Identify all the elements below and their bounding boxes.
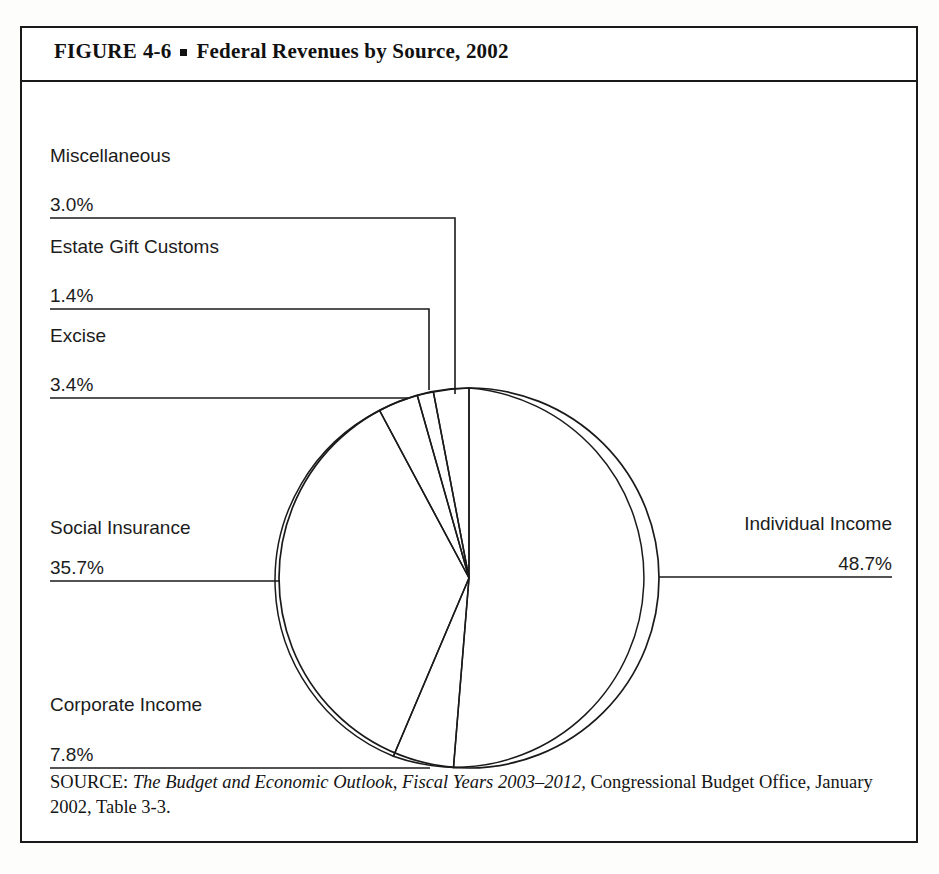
pie-value-excise: 3.4% [50,374,93,395]
pie-slice-individual-income [454,388,644,767]
figure-frame: FIGURE4-6Federal Revenues by Source, 200… [20,26,918,843]
figure-title-bar: FIGURE4-6Federal Revenues by Source, 200… [22,28,916,82]
page-title: FIGURE4-6Federal Revenues by Source, 200… [54,39,509,64]
pie-value-estate-gift-customs: 1.4% [50,285,93,306]
square-bullet-icon [180,49,187,56]
pie-value-corporate-income: 7.8% [50,744,93,765]
pie-slice-social-insurance [275,411,469,757]
source-label: SOURCE: [50,772,128,792]
pie-label-social-insurance: Social Insurance [50,517,190,538]
pie-value-individual-income: 48.7% [838,553,892,574]
pie-value-miscellaneous: 3.0% [50,194,93,215]
pie-label-estate-gift-customs: Estate Gift Customs [50,236,219,257]
figure-title-text: Federal Revenues by Source, 2002 [196,39,508,63]
source-note: SOURCE: The Budget and Economic Outlook,… [50,770,890,820]
pie-chart-svg: Miscellaneous 3.0% Estate Gift Customs 1… [22,82,916,789]
pie-label-miscellaneous: Miscellaneous [50,145,170,166]
pie-value-social-insurance: 35.7% [50,557,104,578]
figure-label: FIGURE [54,39,137,63]
leader-line-estate-gift-customs [50,309,429,390]
pie-chart-plot-area: Miscellaneous 3.0% Estate Gift Customs 1… [22,82,916,789]
source-publication-title: The Budget and Economic Outlook, Fiscal … [133,772,586,792]
figure-number: 4-6 [143,39,172,63]
pie-label-corporate-income: Corporate Income [50,694,202,715]
pie-slice-miscellaneous [433,388,469,578]
pie-label-individual-income: Individual Income [744,513,892,534]
pie-slice-estate-gift-customs [417,392,469,578]
pie-label-excise: Excise [50,325,106,346]
